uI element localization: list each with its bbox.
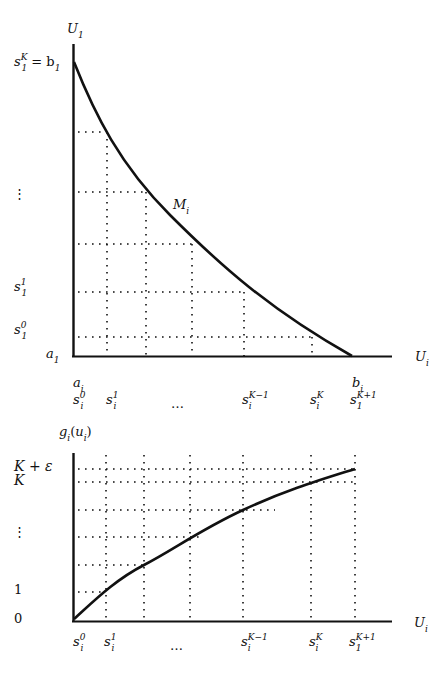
top-vertical-grid — [107, 132, 312, 356]
curve-label-Mi: Mi — [173, 198, 189, 211]
x-tick-si1: s1i — [106, 393, 116, 406]
bottom-x-tick-siK: sKi — [309, 635, 318, 648]
x-tick-siKm1: sK−1i — [242, 393, 252, 406]
y-tick-K: K — [14, 473, 24, 487]
x-tick-si0: s0i — [73, 393, 83, 406]
top-graph — [72, 44, 392, 357]
top-horizontal-grid — [78, 132, 312, 337]
y-tick-s10: s01 — [14, 323, 27, 336]
x-tick-dots: … — [171, 397, 184, 410]
y-tick-zero: 0 — [14, 612, 22, 625]
x-tick-ai: ai — [73, 376, 84, 389]
y-tick-s11: s11 — [14, 280, 27, 293]
x-tick-siK: sKi — [310, 393, 319, 406]
bottom-x-tick-si1: s1i — [104, 635, 114, 648]
bottom-x-tick-si0: s0i — [73, 635, 83, 648]
figure-canvas — [0, 0, 443, 676]
x-tick-s1Kp1: sK+11 — [350, 393, 362, 406]
y-tick-a1: a1 — [46, 347, 60, 360]
bottom-x-tick-dots: … — [170, 639, 183, 652]
y-tick-one: 1 — [14, 583, 22, 596]
x-tick-bi: bi — [352, 376, 363, 389]
y-tick-vdots-bottom: ⋮ — [13, 525, 26, 538]
y-tick-Keps: K + ε — [14, 459, 53, 473]
y-tick-skb1: sK1 = b1 — [14, 55, 60, 68]
gi-curve — [74, 469, 355, 619]
bottom-horizontal-grid — [78, 469, 355, 592]
bottom-x-axis-label: Ui — [414, 616, 428, 629]
bottom-y-axis-label: gi(ui) — [59, 425, 92, 438]
top-x-axis-label: Ui — [415, 350, 429, 363]
bottom-x-tick-s1Kp1: sK+11 — [349, 635, 361, 648]
y-tick-vdots: ⋮ — [13, 187, 26, 200]
frontier-curve-Mi — [74, 62, 352, 356]
bottom-graph — [72, 453, 392, 622]
top-y-axis-label: U1 — [67, 22, 84, 35]
bottom-x-tick-siKm1: sK−1i — [241, 635, 251, 648]
